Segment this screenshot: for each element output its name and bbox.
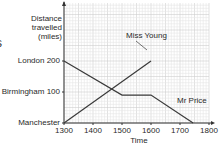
x-tick-label-1500: 1500 — [110, 126, 134, 135]
x-tick-label-1300: 1300 — [52, 126, 76, 135]
y-tick-label-birmingham: Birmingham 100 — [0, 87, 60, 96]
grid-lines — [64, 3, 209, 123]
series-label-miss-young: Miss Young — [126, 31, 167, 40]
axes — [62, 1, 215, 125]
y-axis-title: Distance travelled (miles) — [10, 14, 62, 41]
x-tick-label-1400: 1400 — [81, 126, 105, 135]
series-label-mr-price: Mr Price — [177, 96, 207, 105]
y-tick-label-london: London 200 — [2, 56, 60, 65]
x-tick-label-1600: 1600 — [139, 126, 163, 135]
x-axis-title: Time — [124, 136, 154, 145]
y-axis-title-line: Distance — [10, 14, 62, 23]
y-axis-title-line: (miles) — [10, 32, 62, 41]
y-axis-title-line: travelled — [10, 23, 62, 32]
x-tick-label-1800: 1800 — [197, 126, 221, 135]
x-tick-label-1700: 1700 — [168, 126, 192, 135]
